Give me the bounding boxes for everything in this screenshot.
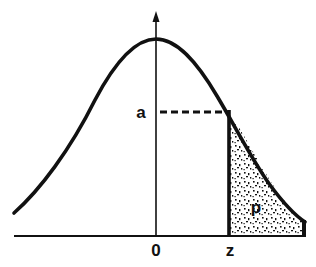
label-origin: 0 [151,241,160,260]
label-a: a [136,103,146,122]
y-axis-arrow-icon [153,11,160,22]
label-p: p [251,198,261,217]
label-z: z [226,241,235,260]
tail-area-p [229,112,305,236]
normal-curve-diagram: a 0 z p [0,0,316,267]
